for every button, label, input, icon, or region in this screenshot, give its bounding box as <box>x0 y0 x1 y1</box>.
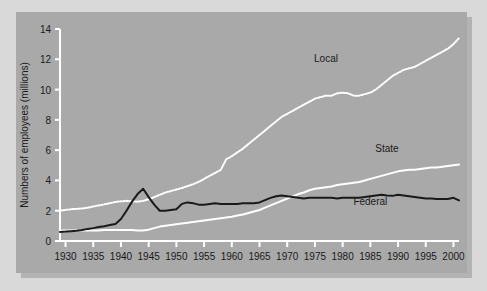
series-label-local: Local <box>314 53 338 64</box>
series-label-state: State <box>375 143 399 154</box>
y-tick-label: 14 <box>40 24 52 35</box>
x-tick-label: 1980 <box>332 251 355 262</box>
x-tick-label: 1950 <box>165 251 188 262</box>
x-tick-label: 1975 <box>304 251 327 262</box>
x-tick-label: 1990 <box>387 251 410 262</box>
y-tick-label: 12 <box>40 54 52 65</box>
x-tick-label: 1960 <box>221 251 244 262</box>
series-line-local <box>60 38 459 211</box>
x-tick-label: 1945 <box>138 251 161 262</box>
x-tick-label: 1995 <box>415 251 438 262</box>
series-label-federal: Federal <box>353 196 387 207</box>
x-tick-label: 1970 <box>276 251 299 262</box>
x-tick-label: 1930 <box>54 251 77 262</box>
line-chart: 0246810121419301935194019451950195519601… <box>16 12 467 273</box>
y-tick-label: 8 <box>45 115 51 126</box>
y-tick-label: 10 <box>40 85 52 96</box>
y-tick-label: 6 <box>45 145 51 156</box>
y-tick-label: 4 <box>45 175 51 186</box>
x-tick-label: 1955 <box>193 251 216 262</box>
x-tick-label: 1965 <box>248 251 271 262</box>
x-tick-label: 1985 <box>359 251 382 262</box>
chart-panel: 0246810121419301935194019451950195519601… <box>16 12 467 273</box>
x-tick-label: 2000 <box>442 251 465 262</box>
figure-root: 0246810121419301935194019451950195519601… <box>0 0 487 291</box>
x-tick-label: 1935 <box>82 251 105 262</box>
y-axis-title: Numbers of employees (millions) <box>19 62 30 208</box>
y-tick-label: 0 <box>45 236 51 247</box>
x-tick-label: 1940 <box>110 251 133 262</box>
y-tick-label: 2 <box>45 206 51 217</box>
